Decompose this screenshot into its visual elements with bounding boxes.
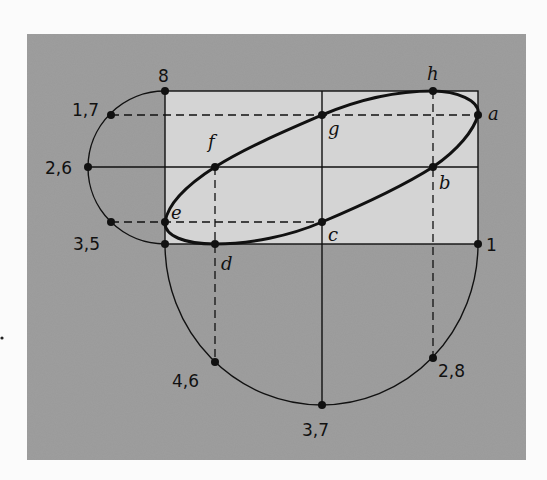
point-1 — [474, 240, 482, 248]
point-f — [211, 163, 219, 171]
label-h: h — [427, 63, 439, 84]
point-g — [318, 111, 326, 119]
point-3-5 — [107, 218, 115, 226]
label-2-8: 2,8 — [438, 361, 465, 381]
stray-dot — [0, 336, 3, 339]
label-2-6: 2,6 — [45, 158, 72, 178]
point-8 — [161, 87, 169, 95]
point-4-6 — [211, 358, 219, 366]
point-c — [318, 218, 326, 226]
point-2-6 — [84, 163, 92, 171]
label-8: 8 — [158, 66, 169, 86]
point-rect-bottom-left — [161, 240, 169, 248]
ellipse-construction-diagram: 8 1,7 2,6 3,5 1 4,6 3,7 2,8 a b c d e f … — [0, 0, 547, 480]
point-3-7 — [318, 401, 326, 409]
label-3-7: 3,7 — [302, 420, 329, 440]
label-g: g — [328, 118, 340, 139]
point-2-8 — [429, 354, 437, 362]
point-a — [474, 111, 482, 119]
label-4-6: 4,6 — [172, 371, 199, 391]
point-1-7 — [107, 111, 115, 119]
label-d: d — [221, 253, 233, 274]
point-d — [211, 240, 219, 248]
point-b — [429, 163, 437, 171]
point-h — [429, 87, 437, 95]
label-b: b — [439, 172, 451, 193]
label-c: c — [328, 224, 338, 245]
label-1: 1 — [486, 235, 497, 255]
point-e — [161, 218, 169, 226]
label-a: a — [488, 103, 499, 124]
label-1-7: 1,7 — [72, 100, 99, 120]
label-3-5: 3,5 — [73, 234, 100, 254]
label-e: e — [171, 202, 182, 223]
